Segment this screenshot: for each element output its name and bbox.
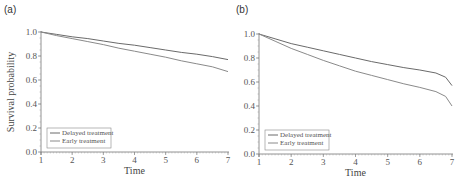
series-line-delayed [41,32,228,60]
x-tick-label: 3 [101,155,106,165]
y-tick-label: 0.8 [26,51,38,61]
y-tick-label: 0.6 [26,75,38,85]
chart-panel-b: (b)0.00.20.40.60.81.01234567TimeDelayed … [236,4,455,178]
y-tick-label: 0.4 [26,99,38,109]
x-tick-label: 2 [289,157,294,167]
x-tick-label: 5 [385,157,390,167]
x-tick-label: 1 [257,157,262,167]
y-tick-label: 0.4 [244,101,256,111]
x-tick-label: 5 [163,155,168,165]
y-tick-label: 0.0 [244,149,256,159]
x-tick-label: 4 [132,155,137,165]
legend-label: Early treatment [280,139,323,147]
series-line-early [259,34,452,106]
y-tick-label: 0.8 [244,53,256,63]
x-tick-label: 3 [321,157,326,167]
x-tick-label: 6 [195,155,200,165]
x-tick-label: 7 [226,155,231,165]
legend-label: Delayed treatment [280,131,332,139]
y-axis-title: Survival probability [5,52,16,132]
legend-label: Early treatment [62,137,105,145]
series-line-early [41,32,228,72]
legend: Delayed treatmentEarly treatment [47,128,114,148]
panel-label: (b) [236,4,248,15]
chart-figure: (a)0.00.20.40.60.81.01234567TimeSurvival… [0,0,469,184]
legend: Delayed treatmentEarly treatment [265,130,332,150]
x-tick-label: 2 [70,155,75,165]
y-tick-label: 0.2 [244,125,255,135]
x-tick-label: 1 [39,155,44,165]
x-axis-title: Time [124,165,145,176]
x-tick-label: 6 [418,157,423,167]
panel-label: (a) [4,4,16,15]
x-tick-label: 7 [450,157,455,167]
series-line-delayed [259,34,452,86]
y-tick-label: 1.0 [26,27,38,37]
chart-panel-a: (a)0.00.20.40.60.81.01234567TimeSurvival… [4,4,231,176]
y-tick-label: 0.0 [26,147,38,157]
legend-label: Delayed treatment [62,129,114,137]
x-axis-title: Time [345,167,366,178]
y-tick-label: 0.2 [26,123,37,133]
x-tick-label: 4 [353,157,358,167]
y-tick-label: 1.0 [244,29,256,39]
y-tick-label: 0.6 [244,77,256,87]
